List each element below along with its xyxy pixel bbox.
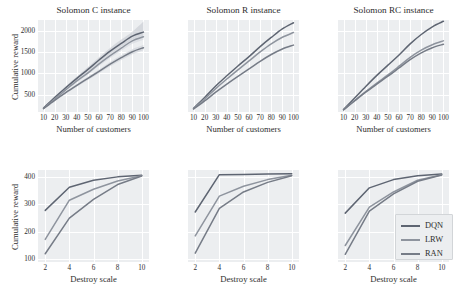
x-tick-label: 20 (351, 114, 358, 122)
legend-swatch-lrw (401, 239, 420, 241)
chart-panel-bottom-middle: 246810Destroy scale (188, 170, 299, 262)
series-line-lrw (344, 41, 444, 110)
x-tick-label: 20 (201, 114, 208, 122)
x-tick-label: 70 (407, 114, 414, 122)
x-tick-label: 90 (279, 114, 286, 122)
x-tick-label: 70 (107, 114, 114, 122)
x-tick-label: 100 (138, 114, 149, 122)
legend-item-dqn[interactable]: DQN (401, 222, 443, 230)
x-tick-label: 80 (418, 114, 425, 122)
panel-title: Solomon RC instance (338, 5, 449, 15)
x-tick-label: 10 (288, 264, 295, 272)
x-tick-label: 10 (340, 114, 347, 122)
x-tick-label: 30 (62, 114, 69, 122)
x-tick-label: 4 (368, 264, 372, 272)
x-tick-label: 100 (438, 114, 449, 122)
x-tick-label: 90 (429, 114, 436, 122)
legend-item-lrw[interactable]: LRW (401, 236, 443, 244)
legend-swatch-ran (401, 253, 420, 255)
x-tick-label: 40 (73, 114, 80, 122)
x-tick-label: 60 (245, 114, 252, 122)
x-tick-label: 80 (118, 114, 125, 122)
x-tick-label: 8 (116, 264, 120, 272)
x-tick-label: 60 (95, 114, 102, 122)
legend-label-dqn: DQN (425, 222, 443, 230)
x-tick-label: 60 (395, 114, 402, 122)
x-axis-label: Number of customers (338, 124, 449, 134)
confidence-band-ran (44, 45, 144, 109)
x-tick-label: 50 (384, 114, 391, 122)
x-tick-label: 70 (257, 114, 264, 122)
legend-swatch-dqn (401, 225, 420, 227)
x-tick-label: 30 (212, 114, 219, 122)
series-layer (38, 20, 149, 112)
x-tick-label: 40 (223, 114, 230, 122)
y-axis-label: Cumulative reward (10, 34, 20, 100)
x-tick-label: 6 (242, 264, 246, 272)
x-tick-label: 40 (373, 114, 380, 122)
legend-label-lrw: LRW (425, 236, 443, 244)
series-line-ran (195, 176, 292, 253)
x-axis-label: Destroy scale (338, 274, 449, 284)
x-axis-label: Number of customers (188, 124, 299, 134)
x-tick-label: 50 (84, 114, 91, 122)
legend-item-ran[interactable]: RAN (401, 250, 443, 258)
y-axis-label: Cumulative reward (10, 184, 20, 250)
series-layer (338, 20, 449, 112)
x-tick-label: 10 (190, 114, 197, 122)
legend: DQNLRWRAN (395, 214, 453, 260)
chart-panel-top-middle: Solomon R instance102030405060708090100N… (188, 20, 299, 112)
x-tick-label: 20 (51, 114, 58, 122)
x-axis-label: Number of customers (38, 124, 149, 134)
x-axis-label: Destroy scale (188, 274, 299, 284)
x-tick-label: 80 (268, 114, 275, 122)
chart-panel-top-left: Solomon C instance1020304050607080901005… (38, 20, 149, 112)
x-tick-label: 100 (288, 114, 299, 122)
series-line-ran (344, 44, 444, 110)
chart-panel-bottom-left: 246810100200300400Destroy scaleCumulativ… (38, 170, 149, 262)
x-tick-label: 2 (43, 264, 47, 272)
series-layer (38, 170, 149, 262)
x-axis-label: Destroy scale (38, 274, 149, 284)
x-tick-label: 6 (92, 264, 96, 272)
x-tick-label: 10 (40, 114, 47, 122)
series-line-ran (44, 48, 144, 109)
panel-title: Solomon C instance (38, 5, 149, 15)
x-tick-label: 4 (218, 264, 222, 272)
panel-title: Solomon R instance (188, 5, 299, 15)
x-tick-label: 2 (343, 264, 347, 272)
series-line-dqn (344, 21, 444, 109)
y-tick-label: 400 (5, 173, 35, 181)
legend-label-ran: RAN (425, 250, 443, 258)
figure-canvas: Solomon C instance1020304050607080901005… (0, 0, 460, 308)
series-line-ran (194, 45, 294, 109)
series-layer (188, 170, 299, 262)
x-tick-label: 2 (193, 264, 197, 272)
x-tick-label: 90 (129, 114, 136, 122)
series-line-lrw (45, 176, 142, 240)
x-tick-label: 10 (138, 264, 145, 272)
x-tick-label: 8 (416, 264, 420, 272)
series-layer (188, 20, 299, 112)
x-tick-label: 30 (362, 114, 369, 122)
x-tick-label: 4 (68, 264, 72, 272)
x-tick-label: 10 (438, 264, 445, 272)
x-tick-label: 8 (266, 264, 270, 272)
chart-panel-top-right: Solomon RC instance102030405060708090100… (338, 20, 449, 112)
x-tick-label: 50 (234, 114, 241, 122)
x-tick-label: 6 (392, 264, 396, 272)
y-tick-label: 100 (5, 255, 35, 263)
